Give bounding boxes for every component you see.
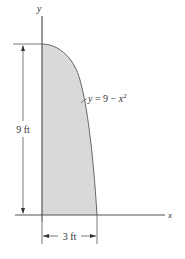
equation-middle: = 9 − [92,93,118,104]
diagram-canvas: y x 9 ft 3 ft y = 9 − x2 [0,0,185,259]
y-axis-label: y [36,3,42,14]
height-dimension-label: 9 ft [16,124,30,135]
x-axis-label: x [167,210,172,220]
arrowhead-up-icon [21,45,25,51]
equation-exponent: 2 [123,92,127,100]
width-dimension-label: 3 ft [63,231,77,242]
arrowhead-left-icon [43,234,49,238]
shaded-region [42,44,97,215]
arrowhead-down-icon [21,208,25,214]
arrowhead-right-icon [90,234,96,238]
curve-equation-label: y = 9 − x2 [87,92,127,104]
